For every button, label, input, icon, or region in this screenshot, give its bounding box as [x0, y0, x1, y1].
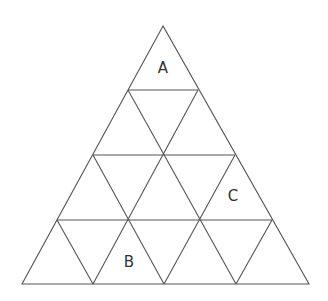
label-a: A — [158, 59, 169, 77]
diagonal-right-3 — [57, 220, 93, 284]
triangle-grid-diagram: A C B — [0, 0, 328, 301]
label-b: B — [124, 253, 134, 271]
diagonal-left-3 — [236, 220, 272, 284]
label-c: C — [228, 187, 238, 205]
